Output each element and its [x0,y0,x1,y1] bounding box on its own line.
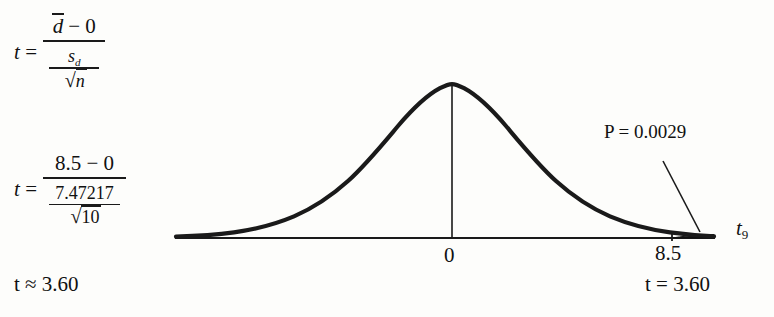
figure-canvas: t = d− 0 sd √n [0,0,774,317]
tick-label-zero: 0 [444,243,455,268]
t-distribution-curve [176,84,714,236]
t-statistic-label: t = 3.60 [645,272,710,297]
t-distribution-chart [0,0,774,317]
tick-label-8point5: 8.5 [655,241,681,266]
axis-label-t9: t9 [736,216,748,243]
p-value-leader-line [663,161,700,232]
p-value-label: P = 0.0029 [604,121,686,143]
axis-label-subscript-9: 9 [742,227,749,242]
